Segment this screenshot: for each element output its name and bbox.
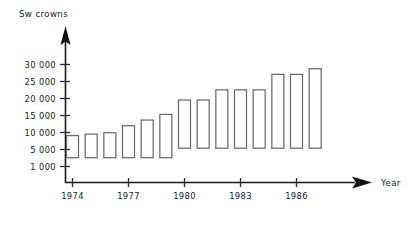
bar-chart-plot: Sw crowns Year 30 000 25 000 20 000 15 0… — [0, 0, 418, 228]
bar-1976 — [104, 133, 116, 158]
x-tick-label: 1986 — [285, 191, 308, 201]
y-tick-label: 1 000 — [30, 162, 56, 172]
bar-series — [67, 69, 322, 158]
bar-1985 — [272, 74, 284, 148]
y-tick-label: 5 000 — [30, 145, 56, 155]
y-axis-tick-labels: 30 000 25 000 20 000 15 000 10 000 5 000… — [25, 60, 56, 172]
bar-1980 — [179, 100, 191, 148]
y-tick-label: 20 000 — [25, 94, 56, 104]
x-axis-title: Year — [380, 178, 401, 188]
y-tick-label: 30 000 — [25, 60, 56, 70]
bar-1982 — [216, 90, 228, 148]
chart-container: Sw crowns Year 30 000 25 000 20 000 15 0… — [0, 0, 418, 228]
bar-1986 — [291, 74, 303, 148]
bar-1983 — [235, 90, 247, 148]
y-tick-label: 10 000 — [25, 128, 56, 138]
bar-1984 — [253, 90, 265, 148]
x-tick-label: 1980 — [173, 191, 196, 201]
x-tick-label: 1977 — [117, 191, 140, 201]
bar-1974 — [67, 136, 79, 158]
bar-1981 — [197, 100, 209, 148]
x-axis-tick-labels: 1974 1977 1980 1983 1986 — [61, 191, 308, 201]
bar-1977 — [123, 126, 135, 158]
bar-1979 — [160, 114, 172, 157]
y-axis-title: Sw crowns — [19, 9, 68, 19]
y-tick-label: 15 000 — [25, 111, 56, 121]
x-tick-label: 1974 — [61, 191, 84, 201]
bar-1978 — [141, 120, 153, 158]
x-tick-label: 1983 — [229, 191, 252, 201]
bar-1987 — [309, 69, 321, 148]
bar-1975 — [85, 134, 97, 158]
y-tick-label: 25 000 — [25, 77, 56, 87]
